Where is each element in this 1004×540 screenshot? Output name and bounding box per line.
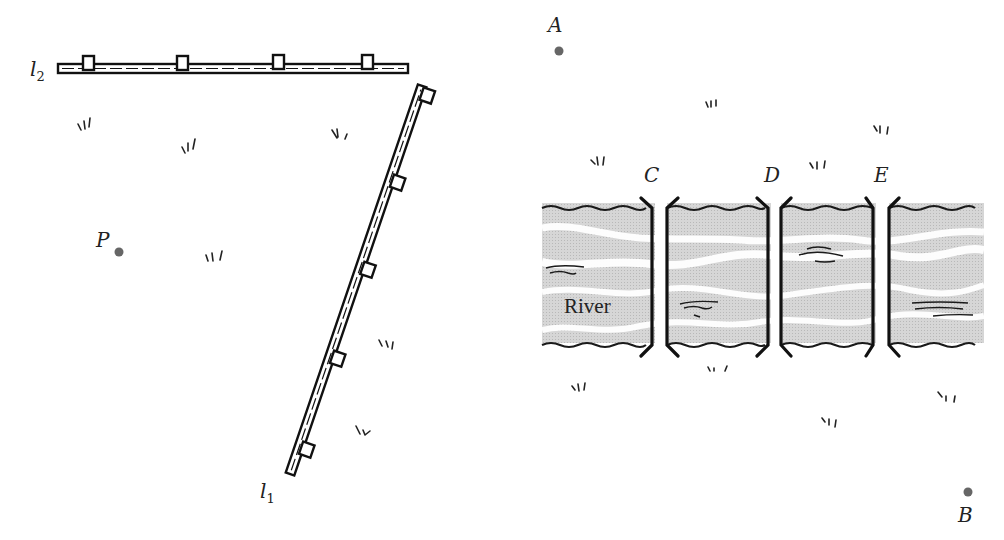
label-e: E — [873, 163, 889, 187]
river-label: River — [564, 294, 611, 318]
label-l1: l1 — [260, 479, 275, 506]
label-p: P — [95, 228, 110, 252]
grass-tufts-left — [78, 118, 393, 435]
point-p — [115, 248, 124, 257]
label-a: A — [546, 13, 562, 37]
diagram-canvas: l2 l1 P A — [0, 0, 1004, 540]
point-a — [555, 47, 564, 56]
left-figure: l2 l1 P — [30, 55, 435, 506]
label-c: C — [644, 163, 659, 187]
right-figure: A — [542, 13, 984, 527]
fence-l2 — [58, 55, 408, 73]
fence-l1 — [286, 84, 436, 478]
point-b — [964, 488, 973, 497]
label-b: B — [957, 503, 973, 527]
river — [542, 203, 984, 343]
label-d: D — [763, 163, 780, 187]
label-l2: l2 — [30, 57, 45, 84]
